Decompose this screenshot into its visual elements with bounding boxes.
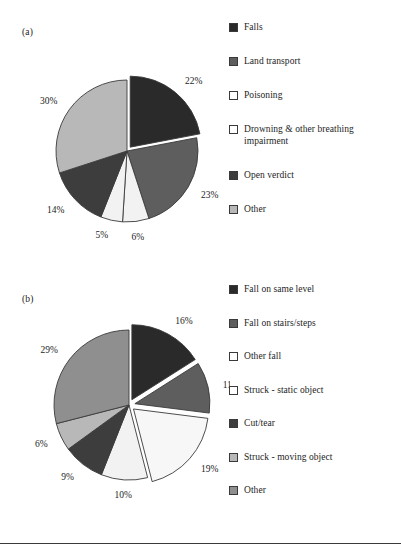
legend-swatch (229, 319, 238, 328)
legend-item[interactable]: Other (229, 204, 401, 216)
legend-item-label: Other (244, 485, 266, 497)
legend-swatch (229, 205, 238, 214)
legend-item[interactable]: Cut/tear (229, 418, 401, 430)
legend-swatch (229, 352, 238, 361)
pie-slice[interactable]: Falls 22% (130, 76, 200, 147)
pie-slices: Fall on same level 16%Fall on stairs/ste… (54, 325, 210, 482)
legend-item-label: Cut/tear (244, 418, 275, 430)
panel-b: (b) Fall on same level 16%Fall on stairs… (0, 272, 401, 530)
slice-value-label: 14% (47, 205, 65, 215)
legend-item-label: Open verdict (244, 170, 294, 182)
slice-value-label: 16% (175, 316, 193, 326)
slice-value-label: 9% (61, 472, 74, 482)
slice-value-label: 10% (115, 490, 133, 500)
slice-value-label: 22% (185, 76, 203, 86)
legend-item-label: Poisoning (244, 90, 282, 102)
slice-value-label: 6% (131, 232, 144, 242)
legend-swatch (229, 453, 238, 462)
panel-a: (a) Falls 22%Land transport 23%Poisoning… (0, 0, 401, 272)
legend-item[interactable]: Land transport (229, 56, 401, 68)
legend-swatch (229, 171, 238, 180)
legend-swatch (229, 125, 238, 134)
legend-item-label: Fall on same level (244, 284, 314, 296)
pie-chart-b: Fall on same level 16%Fall on stairs/ste… (0, 272, 230, 530)
legend-item-label: Other (244, 204, 266, 216)
legend-item[interactable]: Poisoning (229, 90, 401, 102)
legend-item[interactable]: Fall on stairs/steps (229, 318, 401, 330)
legend-swatch (229, 285, 238, 294)
pie-b-svg: Fall on same level 16%Fall on stairs/ste… (0, 272, 230, 530)
legend-swatch (229, 23, 238, 32)
slice-value-label: 29% (40, 345, 58, 355)
legend-item[interactable]: Other (229, 485, 401, 497)
legend-item-label: Fall on stairs/steps (244, 318, 316, 330)
slice-value-label: 6% (35, 439, 48, 449)
legend-item[interactable]: Open verdict (229, 170, 401, 182)
legend-item-label: Struck - static object (244, 385, 323, 397)
slice-value-label: 19% (201, 464, 219, 474)
legend-swatch (229, 486, 238, 495)
legend-item-label: Drowning & other breathing impairment (244, 124, 354, 147)
legend-item[interactable]: Drowning & other breathing impairment (229, 124, 401, 147)
legend-item-label: Falls (244, 22, 263, 34)
legend-item[interactable]: Falls (229, 22, 401, 34)
pie-slices: Falls 22%Land transport 23%Poisoning 6%D… (56, 76, 200, 222)
legend-swatch (229, 57, 238, 66)
pie-chart-a: Falls 22%Land transport 23%Poisoning 6%D… (0, 0, 230, 272)
legend-item[interactable]: Fall on same level (229, 284, 401, 296)
slice-value-label: 23% (201, 190, 219, 200)
legend-a: FallsLand transportPoisoningDrowning & o… (229, 22, 401, 238)
legend-item-label: Other fall (244, 351, 281, 363)
legend-item-label: Land transport (244, 56, 300, 68)
legend-item[interactable]: Struck - static object (229, 385, 401, 397)
pie-a-svg: Falls 22%Land transport 23%Poisoning 6%D… (0, 0, 230, 272)
legend-item[interactable]: Struck - moving object (229, 452, 401, 464)
slice-value-label: 30% (40, 96, 58, 106)
legend-swatch (229, 386, 238, 395)
figure-two-pie-charts: (a) Falls 22%Land transport 23%Poisoning… (0, 0, 401, 554)
legend-item-label: Struck - moving object (244, 452, 332, 464)
legend-swatch (229, 91, 238, 100)
legend-item[interactable]: Other fall (229, 351, 401, 363)
legend-b: Fall on same levelFall on stairs/stepsOt… (229, 284, 401, 519)
bottom-rule (0, 543, 401, 544)
slice-value-label: 5% (96, 230, 109, 240)
legend-swatch (229, 419, 238, 428)
